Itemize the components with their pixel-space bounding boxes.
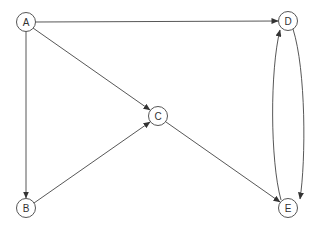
node-a[interactable]: A: [17, 13, 36, 32]
graph-canvas: A B C D E: [0, 0, 318, 228]
edge-c-e: [166, 122, 280, 202]
edge-e-d: [273, 30, 281, 200]
edge-a-c: [33, 28, 150, 110]
edge-b-c: [34, 122, 150, 203]
edge-a-d: [35, 21, 278, 22]
node-b[interactable]: B: [17, 199, 36, 218]
edge-d-e: [293, 29, 304, 199]
node-c-label: C: [154, 111, 161, 122]
node-b-label: B: [23, 203, 30, 214]
node-e[interactable]: E: [279, 199, 298, 218]
node-d-label: D: [284, 16, 291, 27]
node-d[interactable]: D: [279, 12, 298, 31]
node-e-label: E: [285, 203, 292, 214]
node-a-label: A: [23, 17, 30, 28]
node-c[interactable]: C: [149, 107, 168, 126]
